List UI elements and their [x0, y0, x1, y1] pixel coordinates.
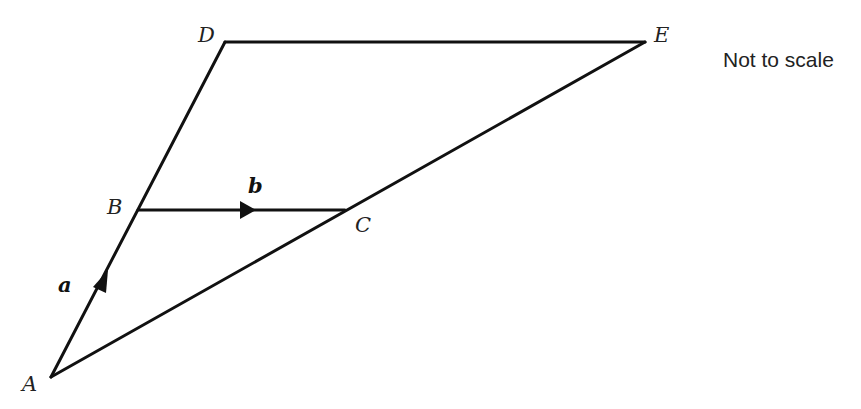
point-label-A: A [20, 372, 37, 396]
not-to-scale-note: Not to scale [723, 48, 834, 71]
point-label-C: C [355, 213, 371, 237]
point-label-D: D [197, 23, 215, 47]
vector-b-arrowhead [240, 201, 256, 219]
vector-diagram: A B C D E a b Not to scale [0, 0, 861, 409]
vector-label-a: a [58, 272, 72, 297]
point-label-B: B [106, 195, 122, 219]
vector-label-b: b [248, 173, 263, 198]
point-label-E: E [653, 23, 669, 47]
